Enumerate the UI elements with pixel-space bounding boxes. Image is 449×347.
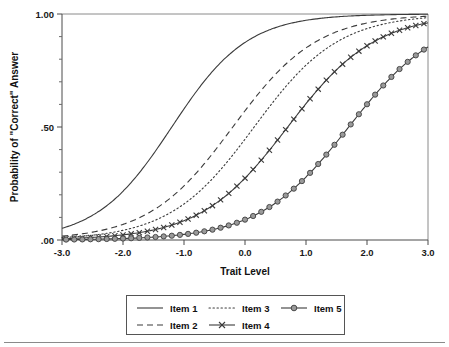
data-point-marker xyxy=(381,34,386,39)
data-point-marker xyxy=(145,235,150,240)
series-item-1 xyxy=(62,14,428,228)
y-tick-label: .00 xyxy=(41,235,54,246)
data-point-marker xyxy=(356,49,361,54)
data-point-marker xyxy=(112,236,117,241)
data-point-marker xyxy=(364,102,369,107)
series-item-5 xyxy=(62,47,428,242)
data-point-marker xyxy=(202,229,207,234)
data-point-marker xyxy=(202,208,207,213)
data-point-marker xyxy=(397,66,402,71)
data-point-marker xyxy=(218,197,223,202)
data-point-marker xyxy=(348,122,353,127)
data-point-marker xyxy=(373,38,378,43)
data-point-marker xyxy=(226,191,231,196)
data-point-marker xyxy=(389,31,394,36)
x-tick-label: 2.0 xyxy=(360,247,373,258)
data-point-marker xyxy=(413,53,418,58)
data-point-marker xyxy=(218,225,223,230)
data-point-marker xyxy=(389,74,394,79)
data-point-marker xyxy=(332,69,337,74)
data-point-marker xyxy=(259,209,264,214)
data-point-marker xyxy=(251,213,256,218)
data-point-marker xyxy=(242,217,247,222)
series-item-2 xyxy=(62,16,428,236)
data-point-marker xyxy=(340,132,345,137)
x-tick-label: 0.0 xyxy=(238,247,251,258)
series-line xyxy=(62,23,428,239)
data-point-marker xyxy=(421,47,426,52)
data-point-marker xyxy=(275,137,280,142)
legend-label: Item 1 xyxy=(170,303,198,314)
data-point-marker xyxy=(405,59,410,64)
series-line xyxy=(62,47,428,240)
chart-figure: .00.501.00 -3.0-2.0-1.00.01.02.03.0 Trai… xyxy=(0,0,449,347)
series-item-3 xyxy=(62,18,428,238)
item-characteristic-curves-chart: .00.501.00 -3.0-2.0-1.00.01.02.03.0 Trai… xyxy=(0,0,449,347)
data-point-marker xyxy=(283,193,288,198)
data-point-marker xyxy=(275,199,280,204)
data-point-marker xyxy=(80,237,85,242)
data-point-marker xyxy=(153,234,158,239)
x-tick-label: 1.0 xyxy=(299,247,312,258)
data-point-marker xyxy=(194,213,199,218)
data-point-marker xyxy=(234,220,239,225)
x-axis-title: Trait Level xyxy=(220,266,270,277)
y-tick-label: .50 xyxy=(41,122,54,133)
data-point-marker xyxy=(96,237,101,242)
x-tick-label: -1.0 xyxy=(176,247,192,258)
data-point-marker xyxy=(185,216,190,221)
legend-box xyxy=(127,296,345,335)
data-point-marker xyxy=(381,83,386,88)
data-point-marker xyxy=(63,237,68,242)
y-axis-title: Probability of "Correct" Answer xyxy=(9,52,20,202)
data-point-marker xyxy=(104,236,109,241)
data-point-marker xyxy=(177,220,182,225)
data-point-marker xyxy=(210,227,215,232)
data-point-marker xyxy=(177,232,182,237)
x-tick-label: 3.0 xyxy=(421,247,434,258)
x-tick-label: -3.0 xyxy=(54,247,70,258)
legend-circle-marker xyxy=(291,305,297,311)
legend-label: Item 3 xyxy=(242,303,269,314)
data-point-marker xyxy=(332,142,337,147)
data-point-marker xyxy=(210,203,215,208)
data-point-marker xyxy=(340,62,345,67)
data-point-marker xyxy=(161,234,166,239)
data-point-marker xyxy=(259,158,264,163)
footer-divider xyxy=(4,342,445,343)
legend-label: Item 4 xyxy=(242,320,270,331)
x-tick-label: -2.0 xyxy=(115,247,131,258)
data-point-marker xyxy=(397,28,402,33)
data-point-marker xyxy=(307,96,312,101)
data-point-marker xyxy=(267,204,272,209)
legend-label: Item 2 xyxy=(170,320,197,331)
plot-frame xyxy=(62,14,428,240)
data-point-marker xyxy=(348,55,353,60)
data-point-marker xyxy=(324,152,329,157)
data-point-marker xyxy=(169,233,174,238)
data-point-marker xyxy=(373,92,378,97)
data-point-marker xyxy=(88,237,93,242)
data-point-marker xyxy=(307,170,312,175)
legend-label: Item 5 xyxy=(314,303,342,314)
y-axis-ticks xyxy=(57,14,62,240)
data-point-marker xyxy=(72,237,77,242)
data-point-marker xyxy=(283,127,288,132)
x-axis-tick-labels: -3.0-2.0-1.00.01.02.03.0 xyxy=(54,247,435,258)
data-point-marker xyxy=(291,186,296,191)
series-line xyxy=(62,16,428,236)
y-tick-label: 1.00 xyxy=(36,9,55,20)
data-point-marker xyxy=(242,176,247,181)
series-line xyxy=(62,14,428,228)
data-point-marker xyxy=(251,167,256,172)
chart-legend: Item 1Item 2Item 3Item 4Item 5 xyxy=(127,296,345,335)
data-point-marker xyxy=(267,148,272,153)
series-item-4 xyxy=(62,21,428,241)
data-point-marker xyxy=(185,231,190,236)
data-point-marker xyxy=(291,117,296,122)
data-point-marker xyxy=(324,78,329,83)
data-point-marker xyxy=(194,230,199,235)
data-point-marker xyxy=(316,161,321,166)
data-point-marker xyxy=(120,236,125,241)
data-point-marker xyxy=(299,179,304,184)
